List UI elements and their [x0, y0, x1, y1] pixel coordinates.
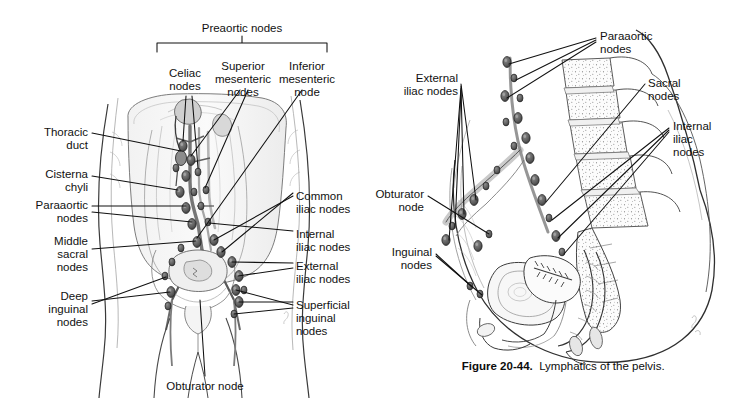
label-superior-mesenteric-nodes: Superior mesenteric nodes: [208, 60, 278, 100]
label-inguinal-nodes: Inguinal nodes: [358, 246, 432, 272]
label-thoracic-duct: Thoracic duct: [8, 126, 88, 152]
label-middle-sacral-nodes: Middle sacral nodes: [8, 235, 88, 275]
label-sacral-nodes: Sacral nodes: [648, 77, 728, 103]
artist-signature: [692, 316, 700, 335]
artist-signature-left: [284, 312, 288, 324]
figure-caption: Figure 20-44. Lymphatics of the pelvis.: [449, 348, 665, 384]
label-superficial-inguinal-nodes: Superficial inguinal nodes: [296, 299, 386, 339]
leader-lines-right: [428, 38, 669, 295]
label-cisterna-chyli: Cisterna chyli: [8, 168, 88, 194]
lymph-node-chain-right: [442, 57, 565, 298]
label-obturator-node-right: Obturator node: [350, 188, 424, 214]
label-celiac-nodes: Celiac nodes: [155, 67, 215, 93]
label-obturator-node-left: Obturator node: [145, 380, 265, 393]
bracket-label-preaortic-nodes: Preaortic nodes: [157, 22, 327, 35]
label-paraaortic-nodes-right: Paraaortic nodes: [600, 30, 690, 56]
label-external-iliac-nodes-right: External iliac nodes: [378, 72, 458, 98]
label-internal-iliac-nodes-right: Internal iliac nodes: [673, 120, 737, 160]
label-inferior-mesenteric-node: Inferior mesenteric node: [272, 60, 342, 100]
figure-number: Figure 20-44.: [462, 360, 533, 372]
label-paraaortic-nodes: Paraaortic nodes: [8, 199, 88, 225]
label-deep-inguinal-nodes: Deep inguinal nodes: [8, 290, 88, 330]
figure-page: Preaortic nodes Celiac nodes Superior me…: [0, 0, 737, 398]
figure-caption-text: Lymphatics of the pelvis.: [539, 360, 665, 372]
lymph-node-chain-left: [162, 141, 247, 318]
